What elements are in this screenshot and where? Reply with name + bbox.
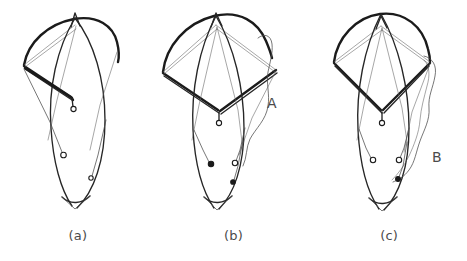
panel-a-drawing	[24, 13, 119, 209]
panel-b-body-right-edge	[216, 16, 244, 209]
panel-b-node-2	[232, 160, 237, 165]
panel-c-node-2	[396, 157, 401, 162]
panel-caption-a: (a)	[0, 228, 156, 243]
panel-a-inner-line-right	[90, 52, 117, 150]
caption-row: (a) (b) (c)	[0, 228, 467, 256]
panel-c-node-3	[396, 177, 401, 182]
figure-linework	[0, 0, 467, 261]
panel-c-inner-line-left	[357, 28, 382, 140]
panel-b-rhombus-top-left-2	[164, 29, 217, 74]
panel-c-drawing	[334, 14, 436, 211]
panel-a-radial-apex-to-left-2	[25, 29, 76, 67]
panel-b-node-1	[208, 161, 213, 166]
panel-a-node-2	[61, 152, 67, 158]
panel-a-node-3	[89, 176, 93, 180]
panel-caption-c: (c)	[311, 228, 467, 243]
panel-b-body-left-edge	[193, 16, 216, 208]
panel-b-bridle-left-shadow	[164, 76, 219, 113]
panel-c-body-left-edge	[358, 14, 381, 209]
panel-b-node-confluence	[216, 120, 221, 125]
panel-b-drawing	[163, 13, 277, 210]
panel-c-node-1	[370, 157, 375, 162]
panel-a-node-1	[71, 106, 76, 111]
panel-c-canopy-arc	[334, 14, 430, 62]
annotation-label-a: A	[267, 96, 277, 110]
panel-b-bridle-left	[163, 73, 218, 110]
panel-b-canopy-arc	[163, 14, 272, 72]
panel-a-apex-notch	[71, 13, 80, 27]
annotation-label-b: B	[432, 150, 442, 164]
figure-root: A B (a) (b) (c)	[0, 0, 467, 261]
panel-caption-b: (b)	[156, 228, 312, 243]
panel-b-node-3	[231, 180, 236, 185]
panel-c-rhombus-top-right	[381, 26, 430, 62]
panel-a-suspension-line-1	[25, 68, 72, 98]
panel-c-node-confluence	[379, 120, 384, 125]
